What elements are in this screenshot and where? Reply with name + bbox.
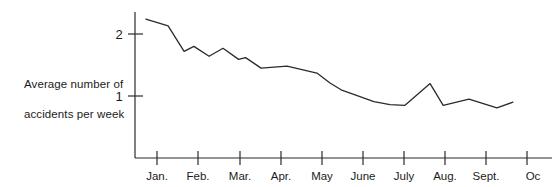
x-tick-label-jan: Jan. xyxy=(146,170,168,182)
y-tick-label-1: 1 xyxy=(115,89,122,104)
chart-figure: Average number of accidents per week 2 1… xyxy=(0,0,559,187)
x-tick-label-mar: Mar. xyxy=(229,170,251,182)
data-series-line xyxy=(146,19,513,108)
y-axis-ticks: 2 1 xyxy=(115,27,143,104)
x-tick-label-may: May xyxy=(311,170,333,182)
x-tick-label-july: July xyxy=(394,170,415,182)
x-tick-label-feb: Feb. xyxy=(186,170,209,182)
y-tick-label-2: 2 xyxy=(115,27,122,42)
x-tick-label-oct: Oc xyxy=(526,170,541,182)
x-tick-label-apr: Apr. xyxy=(271,170,291,182)
x-tick-label-sept: Sept. xyxy=(473,170,500,182)
x-tick-label-aug: Aug. xyxy=(433,170,457,182)
x-axis-ticks: Jan. Feb. Mar. Apr. May June July Aug. S… xyxy=(146,151,540,182)
line-chart-plot: 2 1 Jan. Feb. Mar. Apr. May June July Au… xyxy=(0,0,559,187)
chart-axes xyxy=(135,12,552,158)
x-tick-label-june: June xyxy=(351,170,376,182)
